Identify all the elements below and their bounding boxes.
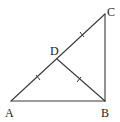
point-label-b: B (101, 106, 109, 120)
triangle-diagram: A B C D (0, 0, 120, 122)
point-label-c: C (107, 5, 115, 19)
point-label-a: A (5, 106, 14, 120)
point-label-d: D (50, 44, 59, 58)
segment-db (57, 59, 105, 101)
